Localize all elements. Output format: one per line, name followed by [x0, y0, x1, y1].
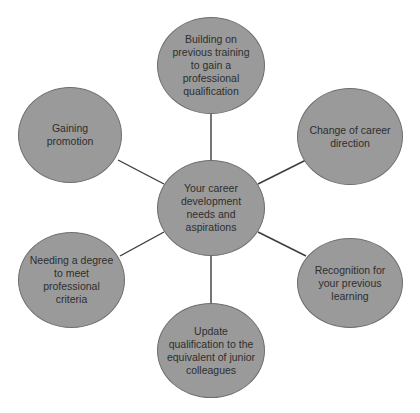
node-recognition-for-previous-learning: Recognition for your previous learning [297, 238, 403, 328]
node-label: Change of career direction [301, 124, 398, 150]
connector-upper-left [118, 160, 164, 184]
center-node: Your career development needs and aspira… [157, 160, 265, 256]
node-label: Update qualification to the equivalent o… [159, 325, 263, 377]
node-label: Gaining promotion [39, 122, 102, 148]
center-node-label: Your career development needs and aspira… [173, 182, 249, 234]
node-label: Recognition for your previous learning [307, 264, 394, 303]
node-update-qualification: Update qualification to the equivalent o… [157, 303, 265, 398]
connector-lower-right [258, 232, 306, 256]
node-building-on-previous-training: Building on previous training to gain a … [157, 17, 265, 114]
career-development-diagram: Your career development needs and aspira… [0, 0, 420, 413]
connector-upper-right [258, 160, 306, 184]
node-label: Building on previous training to gain a … [164, 33, 257, 98]
connector-lower-left [120, 232, 164, 256]
node-label: Needing a degree to meet professional cr… [22, 254, 121, 306]
node-change-of-career-direction: Change of career direction [297, 88, 403, 185]
node-gaining-promotion: Gaining promotion [18, 87, 122, 183]
node-needing-a-degree: Needing a degree to meet professional cr… [18, 232, 125, 328]
